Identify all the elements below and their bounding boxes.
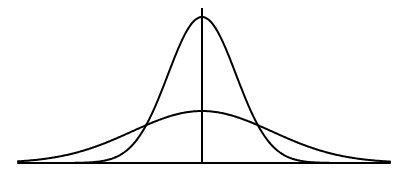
narrow-tall-curve xyxy=(18,17,390,163)
wide-flat-curve xyxy=(18,111,390,162)
normal-distributions-diagram xyxy=(0,0,407,176)
